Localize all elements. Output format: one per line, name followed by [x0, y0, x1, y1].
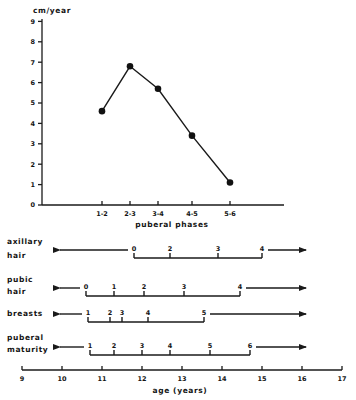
- y-tick-label: 9: [30, 18, 35, 26]
- row-label: puberal: [7, 333, 44, 342]
- data-point: [99, 108, 106, 115]
- stage-label: 2: [142, 283, 147, 291]
- stage-label: 5: [208, 342, 213, 350]
- stage-label: 0: [84, 283, 89, 291]
- y-tick-label: 8: [30, 38, 35, 46]
- stage-label: 2: [108, 309, 113, 317]
- row-label: hair: [7, 287, 26, 296]
- data-point: [155, 85, 162, 92]
- y-axis-label: cm/year: [33, 6, 71, 15]
- data-point: [189, 132, 196, 139]
- stage-label: 4: [146, 309, 151, 317]
- row-label: pubic: [7, 275, 33, 284]
- stage-label: 4: [238, 283, 243, 291]
- stage-label: 0: [132, 245, 137, 253]
- age-axis-label: age (years): [153, 386, 208, 395]
- timeline-row: axillaryhair0234: [7, 237, 306, 260]
- puberty-growth-chart: cm/year 0123456789 1-22-33-44-55-6 puber…: [0, 0, 356, 400]
- y-tick-label: 6: [30, 79, 35, 87]
- row-label: axillary: [7, 237, 43, 246]
- growth-velocity-chart: cm/year 0123456789 1-22-33-44-55-6 puber…: [30, 6, 284, 229]
- y-tick-label: 3: [30, 140, 35, 148]
- x-tick-label: 2-3: [124, 210, 136, 218]
- stage-label: 6: [248, 342, 253, 350]
- stage-label: 1: [86, 309, 91, 317]
- data-point: [227, 179, 234, 186]
- timeline-row: puberalmaturity123456: [7, 333, 306, 355]
- stage-label: 4: [168, 342, 173, 350]
- age-tick-label: 12: [137, 375, 146, 383]
- stage-label: 3: [216, 245, 221, 253]
- stage-label: 2: [112, 342, 117, 350]
- age-tick-label: 9: [20, 375, 25, 383]
- x-axis-label: puberal phases: [135, 220, 208, 229]
- age-tick-label: 14: [217, 375, 227, 383]
- puberty-stages-timeline: axillaryhair0234pubichair01234breasts123…: [7, 237, 306, 355]
- x-tick-label: 3-4: [152, 210, 164, 218]
- stage-label: 4: [260, 245, 265, 253]
- y-tick-label: 2: [30, 161, 35, 169]
- y-tick-label: 4: [30, 120, 35, 128]
- y-tick-label: 5: [30, 99, 35, 107]
- stage-label: 3: [140, 342, 145, 350]
- age-tick-label: 16: [297, 375, 307, 383]
- stage-label: 3: [120, 309, 125, 317]
- stage-label: 2: [168, 245, 173, 253]
- x-tick-label: 1-2: [96, 210, 108, 218]
- timeline-row: breasts12345: [7, 309, 306, 322]
- x-tick-label: 4-5: [186, 210, 198, 218]
- y-tick-label: 1: [30, 181, 35, 189]
- stage-label: 1: [112, 283, 117, 291]
- age-axis: 91011121314151617 age (years): [20, 366, 347, 395]
- age-tick-label: 15: [257, 375, 267, 383]
- series-line: [102, 66, 230, 182]
- stage-label: 1: [88, 342, 93, 350]
- row-label: maturity: [7, 345, 48, 354]
- row-label: hair: [7, 251, 26, 260]
- data-point: [127, 63, 134, 70]
- age-tick-label: 11: [97, 375, 107, 383]
- x-tick-label: 5-6: [224, 210, 236, 218]
- y-tick-label: 0: [30, 201, 35, 209]
- row-label: breasts: [7, 309, 43, 318]
- y-tick-label: 7: [30, 59, 35, 67]
- stage-label: 3: [182, 283, 187, 291]
- age-tick-label: 13: [177, 375, 186, 383]
- age-tick-label: 17: [337, 375, 346, 383]
- age-tick-label: 10: [57, 375, 67, 383]
- stage-label: 5: [202, 309, 207, 317]
- timeline-row: pubichair01234: [7, 275, 306, 296]
